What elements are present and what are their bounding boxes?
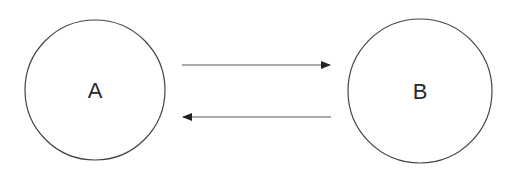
node-b-label: B	[413, 79, 428, 104]
diagram-canvas: A B	[0, 0, 518, 178]
node-b: B	[348, 19, 492, 163]
node-a: A	[25, 20, 165, 160]
node-a-label: A	[88, 78, 103, 103]
